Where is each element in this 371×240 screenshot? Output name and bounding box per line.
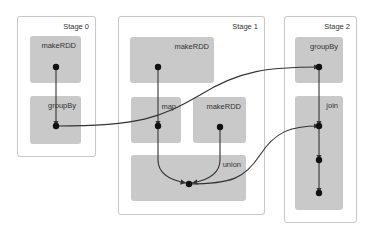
rdd-union-stage1[interactable]: union xyxy=(131,155,246,201)
rdd-map-stage1[interactable]: map xyxy=(131,97,181,143)
rdd-groupBy-stage2[interactable]: groupBy xyxy=(295,37,343,83)
rdd-groupBy-stage0[interactable]: groupBy xyxy=(30,96,81,144)
rdd-makeRDD-stage0[interactable]: makeRDD xyxy=(30,36,81,83)
rdd-label: groupBy xyxy=(310,42,338,51)
rdd-label: makeRDD xyxy=(41,41,76,50)
rdd-join-stage2[interactable]: join xyxy=(295,96,343,210)
stage-2-label: Stage 2 xyxy=(324,22,350,31)
stage-0-label: Stage 0 xyxy=(63,22,89,31)
stage-1-label: Stage 1 xyxy=(232,22,258,31)
rdd-label: union xyxy=(223,160,241,169)
rdd-makeRDD-stage1-a[interactable]: makeRDD xyxy=(130,37,214,83)
rdd-label: map xyxy=(161,102,176,111)
rdd-label: groupBy xyxy=(48,101,76,110)
rdd-label: makeRDD xyxy=(174,42,209,51)
rdd-makeRDD-stage1-b[interactable]: makeRDD xyxy=(193,97,246,143)
rdd-label: join xyxy=(326,101,338,110)
rdd-label: makeRDD xyxy=(206,102,241,111)
